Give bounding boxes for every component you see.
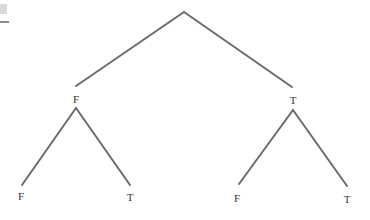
node-label-l2-3: T (344, 193, 351, 205)
edge-left-right (76, 108, 130, 185)
node-label-l2-0: F (18, 190, 24, 202)
node-label-l2-2: F (234, 192, 240, 204)
edge-left-left (22, 108, 76, 185)
tree-diagram: F T F T F T (0, 0, 370, 220)
edge-root-right (184, 12, 292, 87)
edge-root-left (76, 12, 184, 86)
node-labels: F T F T F T (18, 93, 351, 205)
node-label-l2-1: T (127, 191, 134, 203)
node-label-l1-right: T (290, 94, 297, 106)
edge-right-left (239, 110, 293, 184)
edges (22, 12, 347, 186)
edge-right-right (293, 110, 347, 186)
node-label-l1-left: F (73, 93, 79, 105)
